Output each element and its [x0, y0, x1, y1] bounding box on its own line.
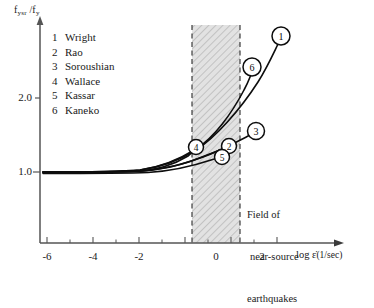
y-tick-label-2p0: 2.0 [0, 91, 32, 104]
legend-item-kaneko: 6Kaneko [52, 104, 115, 119]
svg-text:4: 4 [194, 143, 199, 153]
x-tick-label-minus6: -6 [31, 250, 63, 263]
svg-text:3: 3 [254, 126, 259, 137]
y-tick-label-1p0: 1.0 [0, 165, 32, 178]
x-axis-label-units: (1/sec) [316, 250, 342, 260]
svg-text:2: 2 [227, 142, 232, 152]
x-tick-label-zero: 0 [200, 250, 232, 263]
legend-number: 6 [52, 104, 65, 116]
legend-number: 4 [52, 75, 65, 87]
y-axis-label: fysr /fy [14, 4, 40, 17]
y-axis-label-slash: /f [27, 4, 36, 15]
annotation-line-2: near-source [247, 250, 299, 264]
x-tick-label-minus4: -4 [77, 250, 109, 263]
legend-item-soroushian: 3Soroushian [52, 60, 115, 75]
y-axis [35, 16, 43, 243]
x-axis-label-text: log ε̇ [296, 249, 316, 260]
legend-label: Kassar [65, 89, 95, 101]
legend-item-rao: 2Rao [52, 46, 115, 61]
annotation-line-3: earthquakes [247, 292, 299, 306]
legend-label: Soroushian [65, 60, 115, 72]
legend-number: 3 [52, 60, 65, 72]
svg-text:6: 6 [250, 62, 255, 73]
y-axis-label-sub-y: y [36, 9, 40, 17]
svg-text:1: 1 [279, 31, 284, 42]
legend-label: Wallace [65, 75, 100, 87]
near-source-field-annotation: Field of near-source earthquakes [247, 180, 299, 308]
legend-number: 1 [52, 31, 65, 43]
legend-label: Kaneko [65, 104, 99, 116]
legend-label: Rao [65, 46, 83, 58]
legend-number: 5 [52, 89, 65, 101]
legend: 1Wright 2Rao 3Soroushian 4Wallace 5Kassa… [52, 31, 115, 118]
x-tick-label-minus2: -2 [123, 250, 155, 263]
svg-text:5: 5 [220, 153, 225, 163]
x-axis-label: log ε̇(1/sec) [296, 249, 342, 261]
legend-label: Wright [65, 31, 96, 43]
legend-item-kassar: 5Kassar [52, 89, 115, 104]
y-axis-label-sub-ysr: ysr [18, 9, 27, 17]
legend-item-wright: 1Wright [52, 31, 115, 46]
legend-item-wallace: 4Wallace [52, 75, 115, 90]
legend-number: 2 [52, 46, 65, 58]
annotation-line-1: Field of [247, 208, 299, 222]
